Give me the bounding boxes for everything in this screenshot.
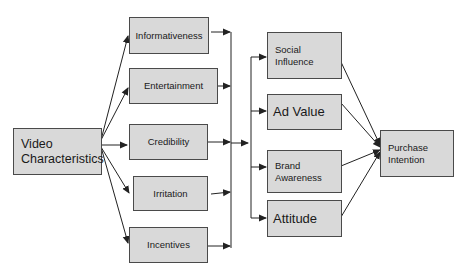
arrow-brand-awareness-to-purchase — [341, 150, 380, 166]
node-social-influence: Social Influence — [267, 32, 342, 79]
node-label: Ad Value — [273, 104, 325, 120]
node-entertainment: Entertainment — [129, 68, 218, 104]
node-label: Credibility — [148, 136, 190, 148]
node-purchase-intention: Purchase Intention — [380, 130, 454, 177]
node-label: Video Characteristics — [21, 137, 104, 167]
arrow-video-to-entertainment — [101, 88, 128, 140]
node-irritation: Irritation — [133, 176, 208, 211]
node-brand-awareness: Brand Awareness — [267, 150, 342, 193]
arrow-social-influence-to-purchase — [341, 62, 380, 145]
node-informativeness: Informativeness — [129, 17, 209, 54]
node-label: Brand Awareness — [275, 160, 322, 184]
node-label: Attitude — [273, 211, 317, 227]
arrow-video-to-irritation — [101, 147, 129, 193]
node-label: Entertainment — [144, 80, 203, 92]
arrow-attitude-to-purchase — [341, 152, 380, 217]
node-label: Social Influence — [275, 44, 314, 68]
node-label: Informativeness — [135, 30, 202, 42]
arrow-video-to-incentives — [101, 147, 128, 243]
node-label: Incentives — [147, 239, 190, 251]
node-attitude: Attitude — [267, 200, 342, 237]
arrow-irritation-to-bus — [211, 192, 230, 194]
arrow-ad-value-to-purchase — [341, 103, 380, 147]
node-credibility: Credibility — [129, 124, 208, 160]
node-label: Purchase Intention — [388, 142, 428, 166]
arrow-video-to-informativeness — [101, 36, 128, 140]
node-label: Irritation — [153, 188, 187, 200]
node-video-characteristics: Video Characteristics — [13, 128, 102, 175]
node-ad-value: Ad Value — [267, 94, 342, 130]
node-incentives: Incentives — [129, 227, 208, 263]
